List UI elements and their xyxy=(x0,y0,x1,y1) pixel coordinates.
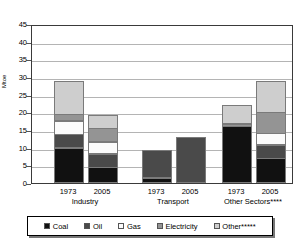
x-tick-label-year: 2005 xyxy=(82,187,122,196)
y-tick-label: 15 xyxy=(9,127,27,135)
gridline xyxy=(32,44,292,45)
bar-segment-oil[interactable] xyxy=(54,134,84,148)
legend-swatch-oil xyxy=(84,223,90,229)
bar-segment-coal[interactable] xyxy=(54,148,84,183)
y-tick-label: 5 xyxy=(9,162,27,170)
y-tick-label: 25 xyxy=(9,92,27,100)
y-tick-label: 0 xyxy=(9,180,27,188)
bar-segment-oil[interactable] xyxy=(88,154,118,168)
bar-segment-gas[interactable] xyxy=(54,121,84,135)
legend-item[interactable]: Coal xyxy=(44,222,68,231)
gridline xyxy=(32,79,292,80)
legend-swatch-electricity xyxy=(157,223,163,229)
bar-stack[interactable] xyxy=(222,105,252,183)
plot-area xyxy=(31,25,293,184)
x-tick-label-year: 2005 xyxy=(170,187,210,196)
x-group-label: Other Sectors**** xyxy=(198,197,301,206)
y-tick-label: 20 xyxy=(9,109,27,117)
y-axis-title: Mtoe xyxy=(1,75,7,88)
plot-inner xyxy=(32,26,292,183)
bar-segment-other[interactable] xyxy=(88,115,118,129)
legend-swatch-other xyxy=(214,223,220,229)
bar-segment-coal[interactable] xyxy=(88,167,118,183)
bar-segment-gas[interactable] xyxy=(256,133,286,145)
gridline xyxy=(32,61,292,62)
bar-segment-coal[interactable] xyxy=(222,126,252,183)
legend-item[interactable]: Gas xyxy=(118,222,140,231)
bar-segment-electricity[interactable] xyxy=(88,128,118,142)
legend-label: Gas xyxy=(127,222,141,231)
stacked-bar-chart: Mtoe 051015202530354045 1973200519732005… xyxy=(0,0,301,243)
y-tick-mark xyxy=(26,184,31,185)
y-tick-label: 10 xyxy=(9,145,27,153)
legend-swatch-gas xyxy=(118,223,124,229)
legend-item[interactable]: Oil xyxy=(84,222,102,231)
bar-stack[interactable] xyxy=(54,81,84,183)
legend-item[interactable]: Other***** xyxy=(214,222,256,231)
legend-swatch-coal xyxy=(44,223,50,229)
legend-label: Other***** xyxy=(222,222,255,231)
y-tick-label: 30 xyxy=(9,74,27,82)
legend-item[interactable]: Electricity xyxy=(157,222,198,231)
legend-label: Electricity xyxy=(165,222,197,231)
bar-stack[interactable] xyxy=(88,115,118,183)
bar-stack[interactable] xyxy=(256,81,286,183)
bar-segment-oil[interactable] xyxy=(176,137,206,183)
bar-segment-other[interactable] xyxy=(256,81,286,113)
bar-segment-oil[interactable] xyxy=(256,145,286,159)
legend-label: Oil xyxy=(93,222,102,231)
bar-segment-oil[interactable] xyxy=(142,150,172,178)
y-tick-label: 45 xyxy=(9,21,27,29)
bar-segment-coal[interactable] xyxy=(142,178,172,183)
bar-segment-other[interactable] xyxy=(222,105,252,124)
y-tick-label: 40 xyxy=(9,39,27,47)
bar-segment-other[interactable] xyxy=(54,81,84,115)
y-tick-label: 35 xyxy=(9,56,27,64)
bar-stack[interactable] xyxy=(142,150,172,183)
bar-stack[interactable] xyxy=(176,137,206,183)
chart-legend: CoalOilGasElectricityOther***** xyxy=(27,216,273,236)
legend-label: Coal xyxy=(53,222,68,231)
bar-segment-gas[interactable] xyxy=(88,142,118,154)
x-tick-label-year: 2005 xyxy=(250,187,290,196)
bar-segment-electricity[interactable] xyxy=(256,112,286,133)
bar-segment-coal[interactable] xyxy=(256,158,286,183)
